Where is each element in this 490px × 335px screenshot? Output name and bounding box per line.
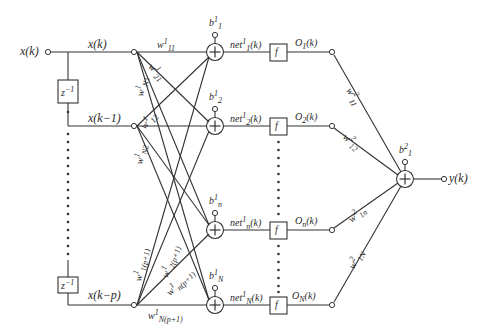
net-label-2: net12(k) [230, 112, 261, 127]
output-bias-label: b21 [399, 143, 412, 158]
hidden-output-n: On(k) [295, 216, 317, 229]
hidden-output-2: O2(k) [295, 112, 317, 125]
bias-label-N: b1N [209, 269, 223, 284]
delay-label-p: z−1 [61, 279, 74, 291]
activation-f-N: f [275, 300, 278, 310]
bias-label-1: b11 [209, 16, 222, 31]
activation-f-n: f [275, 225, 278, 235]
tap-label-p: x(k−p) [88, 289, 121, 301]
neural-network-diagram: x(k) x(k) x(k−1) x(k−p) z−1 z−1 w111 w12… [0, 0, 490, 335]
output-signal-label: y(k) [449, 172, 468, 184]
weight-label-wNp1: w1N(p+1) [148, 309, 183, 324]
activation-f-1: f [275, 47, 278, 57]
bias-label-n: b1n [209, 194, 222, 209]
hidden-output-1: O1(k) [295, 38, 317, 51]
net-label-N: net1N(k) [230, 291, 263, 306]
bias-label-2: b12 [209, 90, 222, 105]
tap-label-0: x(k) [88, 38, 107, 50]
net-label-1: net11(k) [230, 38, 261, 53]
delay-label-1: z−1 [61, 86, 74, 98]
weight-label-w11: w111 [157, 38, 175, 53]
tap-label-1: x(k−1) [88, 112, 121, 124]
activation-f-2: f [275, 121, 278, 131]
input-signal-label: x(k) [20, 45, 39, 57]
hidden-output-N: ON(k) [292, 291, 316, 304]
net-label-n: net1n(k) [230, 216, 261, 231]
